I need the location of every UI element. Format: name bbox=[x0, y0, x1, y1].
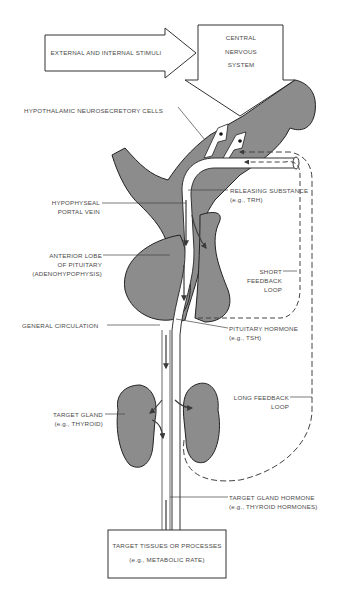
cns-label-3: SYSTEM bbox=[205, 61, 277, 69]
releasing-substance-label-1: RELEASING SUBSTANCE bbox=[230, 187, 308, 195]
thyroid-right-lobe bbox=[183, 383, 219, 463]
pituitary-hormone-label-2: (e.g., TSH) bbox=[229, 334, 261, 342]
target-tissues-label-2: (e.g., METABOLIC RATE) bbox=[108, 556, 226, 564]
general-circulation-label: GENERAL CIRCULATION bbox=[22, 322, 98, 330]
target-tissues-label-1: TARGET TISSUES OR PROCESSES bbox=[108, 542, 226, 550]
portal-vein-label-1: HYPOPHYSEAL bbox=[40, 199, 100, 207]
posterior-pituitary bbox=[195, 212, 230, 322]
cns-label-2: NERVOUS bbox=[205, 48, 277, 56]
thyroid-left-lobe bbox=[117, 385, 156, 467]
target-gland-label-1: TARGET GLAND bbox=[30, 411, 103, 419]
portal-vein-label-2: PORTAL VEIN bbox=[40, 208, 100, 216]
target-gland-hormone-label-2: (e.g., THYROID HORMONES) bbox=[229, 503, 318, 511]
pituitary-hormone-label-1: PITUITARY HORMONE bbox=[229, 325, 298, 333]
long-feedback-label-2: LOOP bbox=[220, 403, 289, 411]
short-feedback-label-2: FEEDBACK bbox=[240, 277, 282, 285]
releasing-substance-label-2: (e.g., TRH) bbox=[230, 196, 263, 204]
target-gland-label-2: (e.g., THYROID) bbox=[30, 420, 103, 428]
cns-label-1: CENTRAL bbox=[205, 34, 277, 42]
long-feedback-label-1: LONG FEEDBACK bbox=[220, 394, 289, 402]
stimuli-label: EXTERNAL AND INTERNAL STIMULI bbox=[48, 49, 164, 57]
anterior-lobe-label-1: ANTERIOR LOBE bbox=[20, 252, 102, 260]
target-gland-hormone-label-1: TARGET GLAND HORMONE bbox=[229, 494, 315, 502]
anterior-lobe-label-2: OF PITUITARY bbox=[20, 261, 102, 269]
short-feedback-label-1: SHORT bbox=[240, 268, 282, 276]
anterior-lobe-label-3: (ADENOHYPOPHYSIS) bbox=[20, 270, 102, 278]
hypothalamic-cells-label: HYPOTHALAMIC NEUROSECRETORY CELLS bbox=[24, 107, 163, 115]
target-tissues-box bbox=[108, 530, 226, 578]
short-feedback-label-3: LOOP bbox=[240, 286, 282, 294]
